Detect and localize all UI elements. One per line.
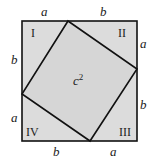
label-left-bottom: a xyxy=(11,110,18,125)
label-top-left: a xyxy=(41,4,48,19)
label-bottom-right: a xyxy=(110,144,117,159)
label-right-bottom: b xyxy=(140,97,147,112)
region-label-2: II xyxy=(118,26,126,40)
region-label-3: III xyxy=(119,125,131,139)
region-label-4: IV xyxy=(26,125,39,139)
exponent: 2 xyxy=(79,72,84,82)
region-label-1: I xyxy=(31,26,35,40)
pythagorean-diagram: I II III IV c2 a b a b a b a b xyxy=(0,0,153,166)
label-top-right: b xyxy=(100,4,107,19)
label-bottom-left: b xyxy=(53,144,60,159)
label-left-top: b xyxy=(11,52,18,67)
label-right-top: a xyxy=(140,36,147,51)
